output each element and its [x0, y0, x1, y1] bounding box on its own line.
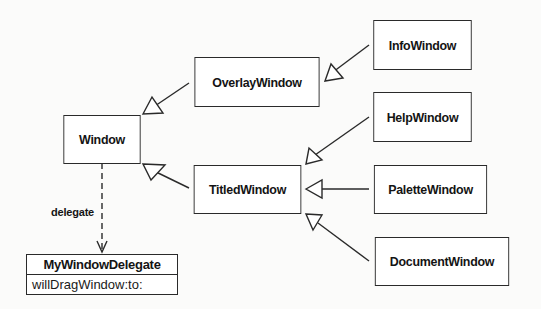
inheritance-arrow-icon — [143, 97, 163, 114]
class-titled-window: TitledWindow — [194, 165, 302, 214]
class-palette-window-label: PaletteWindow — [388, 182, 473, 197]
class-info-window: InfoWindow — [373, 20, 471, 70]
class-help-window: HelpWindow — [373, 92, 471, 142]
inheritance-line-help-titled — [315, 117, 369, 155]
class-window-label: Window — [79, 132, 125, 147]
class-titled-window-label: TitledWindow — [209, 182, 286, 197]
class-overlay-window-label: OverlayWindow — [212, 75, 301, 90]
inheritance-line-info-overlay — [333, 45, 369, 72]
inheritance-arrow-icon — [143, 164, 165, 180]
delegate-class-method: willDragWindow:to: — [27, 275, 177, 294]
class-help-window-label: HelpWindow — [387, 110, 459, 125]
class-document-window: DocumentWindow — [375, 237, 509, 286]
class-overlay-window: OverlayWindow — [194, 57, 319, 107]
class-window: Window — [63, 115, 140, 164]
class-document-window-label: DocumentWindow — [390, 254, 494, 269]
class-info-window-label: InfoWindow — [389, 38, 456, 53]
inheritance-arrow-icon — [306, 148, 322, 164]
class-my-window-delegate: MyWindowDelegate willDragWindow:to: — [26, 254, 178, 295]
inheritance-arrow-icon — [306, 180, 322, 198]
inheritance-arrow-icon — [306, 214, 322, 230]
delegate-association-label: delegate — [51, 206, 94, 218]
inheritance-line-document-titled — [318, 223, 369, 261]
delegate-class-name: MyWindowDelegate — [27, 255, 177, 275]
class-palette-window: PaletteWindow — [374, 165, 487, 214]
